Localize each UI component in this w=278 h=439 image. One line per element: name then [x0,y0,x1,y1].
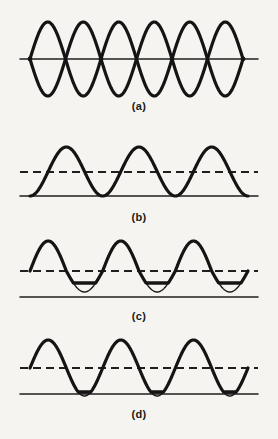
panel-c-trough-remnant [219,283,241,292]
panel-a-node-2 [99,57,104,62]
panel-d-wave-clipped [30,340,248,392]
panel-c-trough-remnant [74,283,96,292]
panel-label-b: (b) [0,211,278,223]
panel-label-a: (a) [0,100,278,112]
panel-a-node-4 [241,57,246,62]
panel-label-d: (d) [0,408,278,420]
panel-label-c: (c) [0,310,278,322]
panel-a-node-3 [170,57,175,62]
panel-c-wave-clipped [30,241,248,283]
panel-c-trough-remnant [146,283,168,292]
panel-a-node-1 [28,57,33,62]
